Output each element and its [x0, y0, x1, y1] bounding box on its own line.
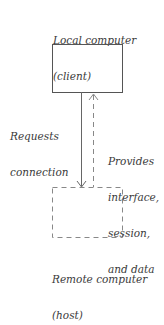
host-subtitle: (host) [52, 309, 147, 321]
client-box [53, 45, 123, 93]
request-label: Requests connection [10, 106, 68, 190]
response-label-line2: interface, [108, 191, 159, 203]
response-label-line3: session, [108, 227, 159, 239]
request-label-line2: connection [10, 166, 68, 178]
request-label-line1: Requests [10, 130, 68, 142]
host-title: Remote computer [52, 273, 147, 285]
host-label: Remote computer (host) [52, 249, 147, 325]
response-label-line1: Provides [108, 155, 159, 167]
